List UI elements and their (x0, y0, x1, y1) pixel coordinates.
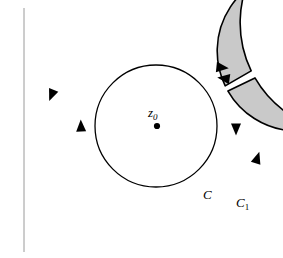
center-point-label: z0 (148, 106, 158, 122)
annulus-contour-figure: z0 C C1 (0, 0, 283, 258)
arrowhead-outer-upper-left (45, 88, 59, 103)
arrowhead-middle-left (76, 119, 86, 131)
inner-contour-label: C (203, 188, 212, 201)
outer-contour-label-base: C (236, 195, 245, 210)
arrowhead-middle-right (231, 124, 241, 136)
outer-contour-label: C1 (236, 196, 249, 212)
center-point-label-subscript: 0 (153, 112, 158, 122)
annulus-contour-svg (0, 0, 283, 258)
arrowhead-outer-lower-right (251, 150, 264, 165)
center-point-dot (154, 123, 160, 129)
annulus-shaded-region (217, 0, 283, 133)
outer-contour-label-subscript: 1 (245, 202, 250, 212)
